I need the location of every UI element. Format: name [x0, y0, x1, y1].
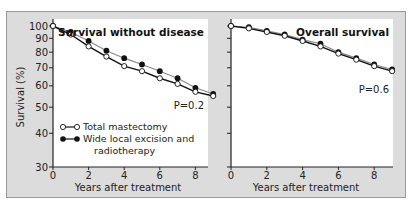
y-tick-label: 70 [35, 62, 48, 73]
x-tick-label: 8 [192, 170, 198, 181]
data-point-filled [175, 75, 181, 81]
x-tick-label: 6 [335, 170, 341, 181]
x-tick-label: 4 [299, 170, 305, 181]
y-tick-label: 50 [35, 102, 48, 113]
panel-overall-survival: 02468 [227, 19, 395, 181]
x-axis-title-right: Years after treatment [252, 182, 360, 193]
y-tick-label: 80 [35, 47, 48, 58]
data-point-open [122, 64, 127, 69]
x-tick-label: 0 [228, 170, 234, 181]
x-tick-label: 4 [121, 170, 127, 181]
data-point-filled [157, 68, 163, 74]
data-point-open [300, 38, 305, 43]
data-point-open [264, 29, 269, 34]
data-point-filled [139, 62, 145, 68]
y-axis-title: Survival (%) [15, 67, 26, 128]
data-point-open [228, 23, 233, 28]
data-point-filled [104, 48, 110, 54]
y-tick-label: 60 [35, 80, 48, 91]
data-point-open [282, 33, 287, 38]
legend-label: Wide local excision and [83, 133, 194, 144]
data-point-open [50, 23, 55, 28]
x-tick-label: 2 [85, 170, 91, 181]
data-point-open [354, 57, 359, 62]
x-tick-label: 8 [371, 170, 377, 181]
data-point-open [139, 69, 144, 74]
x-axis-title-left: Years after treatment [74, 182, 182, 193]
title-left: Survival without disease [58, 26, 204, 38]
filled-circle-icon [60, 136, 66, 142]
x-tick-label: 2 [264, 170, 270, 181]
data-point-open [157, 76, 162, 81]
data-point-filled [86, 38, 92, 44]
data-point-filled [121, 55, 127, 61]
filled-circle-icon [74, 136, 80, 142]
legend-label: Total mastectomy [82, 121, 168, 132]
open-circle-icon [60, 124, 65, 129]
y-tick-label: 30 [35, 162, 48, 173]
p-value-left: P=0.2 [174, 100, 204, 111]
data-point-open [193, 89, 198, 94]
data-point-open [336, 51, 341, 56]
data-point-open [372, 64, 377, 69]
data-point-open [390, 69, 395, 74]
p-value-right: P=0.6 [359, 84, 389, 95]
data-point-open [211, 93, 216, 98]
data-point-open [104, 54, 109, 59]
data-point-open [86, 44, 91, 49]
x-tick-label: 6 [157, 170, 163, 181]
y-tick-label: 90 [35, 33, 48, 44]
survival-chart: 3040506070809010002468 02468 Survival (%… [0, 0, 420, 206]
y-tick-label: 100 [29, 21, 48, 32]
open-circle-icon [74, 124, 79, 129]
y-tick-label: 40 [35, 128, 48, 139]
data-point-open [246, 26, 251, 31]
data-point-open [175, 81, 180, 86]
title-right: Overall survival [296, 26, 389, 38]
legend-label-continued: radiotherapy [94, 145, 156, 156]
data-point-open [318, 44, 323, 49]
x-tick-label: 0 [50, 170, 56, 181]
